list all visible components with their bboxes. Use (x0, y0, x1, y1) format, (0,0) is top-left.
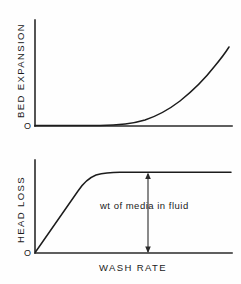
annotation-arrow-wt-of-media (145, 173, 151, 254)
chart-bottom-head-loss: HEAD LOSS O WASH RATE wt of media in flu… (15, 160, 232, 273)
annotation-arrowhead-down (145, 247, 151, 254)
annotation-label-wt-of-media: wt of media in fluid (99, 200, 189, 211)
top-y-axis-label: BED EXPANSION (15, 23, 26, 118)
bottom-origin-label: O (24, 248, 31, 258)
figure-canvas: BED EXPANSION O HEAD LOSS O WASH RATE (0, 0, 241, 284)
top-curve-bed-expansion (35, 47, 229, 125)
top-origin-label: O (24, 121, 31, 131)
bottom-y-axis-label: HEAD LOSS (15, 176, 26, 243)
bottom-x-axis-label: WASH RATE (99, 262, 167, 273)
chart-top-bed-expansion: BED EXPANSION O (15, 20, 232, 131)
annotation-arrowhead-up (145, 173, 151, 180)
figure-container: BED EXPANSION O HEAD LOSS O WASH RATE (0, 0, 241, 284)
bottom-curve-head-loss (36, 172, 232, 252)
